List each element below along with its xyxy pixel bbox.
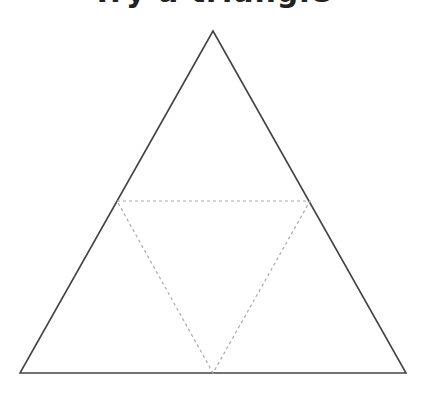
inner-dashed-triangle <box>117 201 310 373</box>
triangle-diagram <box>0 0 424 393</box>
outer-triangle <box>20 31 406 373</box>
